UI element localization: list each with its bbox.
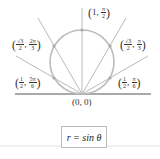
label-point-half-5pi-over-6: (12, 5π6)	[15, 76, 41, 90]
origin-label: (0, 0)	[72, 98, 92, 107]
point-marker	[108, 44, 111, 47]
label-point-sqrt3-pi-over-3: (√32, π3)	[120, 38, 146, 52]
point-marker	[52, 44, 55, 47]
equation-text: r = sin θ	[67, 132, 102, 143]
point-marker	[80, 28, 83, 31]
label-point-half-pi-over-6: (12, π6)	[118, 76, 141, 90]
equation-box: r = sin θ	[61, 126, 107, 148]
point-marker	[52, 76, 55, 79]
ray-2pi-over-3	[38, 18, 82, 94]
label-point-1-pi-over-2: (1, π2)	[88, 6, 110, 20]
point-marker	[108, 76, 111, 79]
label-point-sqrt3-2pi-over-3: (√32, 2π3)	[12, 38, 41, 52]
